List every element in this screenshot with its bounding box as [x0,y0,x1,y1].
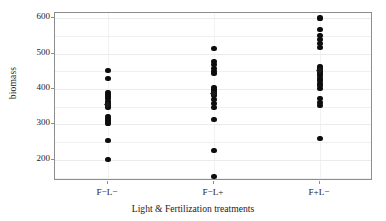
x-axis-tick [213,181,214,184]
data-point [211,117,216,122]
horizontal-gridline-major [55,160,371,161]
data-point [211,148,216,153]
y-axis-tick-label: 200 [10,154,50,163]
data-point [105,138,110,143]
y-axis-tick [51,123,54,124]
x-axis-tick [107,181,108,184]
data-point [317,15,322,20]
y-axis-tick-label: 300 [10,118,50,127]
data-point [317,136,322,141]
plot-panel [54,12,372,180]
horizontal-gridline-major [55,18,371,19]
data-point [211,174,216,179]
y-axis-tick-label: 600 [10,12,50,21]
data-point [317,27,322,32]
chart-figure: biomass 200300400500600 F−L−F−L+F+L− Lig… [0,0,386,221]
data-point [211,71,216,76]
data-point [105,68,110,73]
horizontal-gridline-minor [55,36,371,37]
horizontal-gridline-major [55,54,371,55]
x-axis-title: Light & Fertilization treatments [0,203,386,214]
x-axis-tick [319,181,320,184]
x-axis-tick-label: F+L− [284,187,354,197]
data-point [105,120,110,125]
data-point [105,76,110,81]
y-axis-tick [51,88,54,89]
data-point [105,157,110,162]
x-axis-tick-label: F−L− [72,187,142,197]
data-point [317,86,322,91]
data-point [211,46,216,51]
data-point [317,45,322,50]
data-point [317,103,322,108]
horizontal-gridline-major [55,124,371,125]
y-axis-tick [51,159,54,160]
data-point [211,105,216,110]
horizontal-gridline-minor [55,142,371,143]
y-axis-tick-label: 400 [10,83,50,92]
y-axis-tick [51,53,54,54]
y-axis-tick-label: 500 [10,48,50,57]
y-axis-tick [51,17,54,18]
plot-area [55,13,371,179]
x-axis-tick-label: F−L+ [178,187,248,197]
